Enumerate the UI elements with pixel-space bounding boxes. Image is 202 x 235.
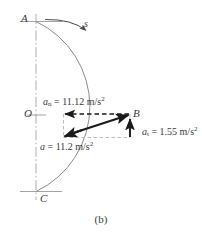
resultant-unit-exponent: 2 [90,140,94,148]
tangential-unit-exponent: 2 [194,125,198,133]
resultant-acceleration-label: a = 11.2 m/s2 [40,141,93,152]
resultant-symbol: a [40,141,45,152]
point-label-c: C [40,193,47,204]
resultant-unit: m/s [75,141,89,152]
point-label-o: O [24,108,32,119]
resultant-vector-tail-head [65,130,83,137]
figure-caption: (b) [0,213,202,225]
acceleration-vector-diagram: A O B C s an = 11.12 m/s2 at = 1.55 m/s2… [0,0,202,235]
tangential-subscript: t [147,130,149,138]
normal-acceleration-label: an = 11.12 m/s2 [43,96,105,108]
path-length-label-s: s [84,19,88,29]
tangential-unit: m/s [180,126,194,137]
resultant-value: 11.2 [56,141,73,152]
tangential-value: 1.55 [160,126,178,137]
point-label-a: A [21,13,28,24]
tangential-equals: = [151,126,157,137]
tangential-acceleration-label: at = 1.55 m/s2 [142,126,198,138]
normal-unit: m/s [87,96,101,107]
resultant-equals: = [48,141,54,152]
normal-equals: = [54,96,60,107]
normal-subscript: n [48,100,52,108]
normal-unit-exponent: 2 [101,95,105,103]
point-label-b: B [133,108,140,119]
normal-value: 11.12 [62,96,84,107]
